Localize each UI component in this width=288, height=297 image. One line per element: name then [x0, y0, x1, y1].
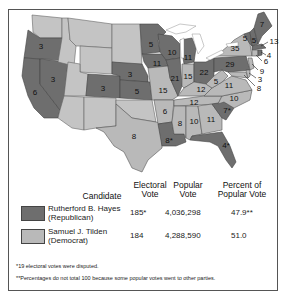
label-georgia: 11: [207, 115, 216, 124]
popular-vote-tilden: 4,288,590: [165, 231, 201, 240]
state-florida: [190, 132, 236, 168]
label-vermont: 5: [243, 34, 248, 43]
label-pennsylvania: 29: [226, 60, 235, 69]
candidate-hayes: Rutherford B. Hayes (Republican): [48, 204, 128, 222]
state-connecticut: [252, 50, 258, 56]
label-new-york: 35: [231, 44, 240, 53]
label-north-carolina: 10: [230, 94, 239, 103]
label-michigan: 11: [184, 53, 193, 62]
candidate-name: Samuel J. Tilden: [48, 227, 128, 236]
footnote-percentages: **Percentages do not total 100 because s…: [16, 275, 215, 281]
label-indiana: 15: [184, 72, 193, 81]
label-oregon: 3: [39, 42, 44, 51]
legend-swatch-democrat: [21, 229, 45, 244]
percent-hayes: 47.9**: [231, 208, 253, 217]
candidate-party: (Republican): [48, 213, 128, 222]
header-percent-line2: Popular Vote: [210, 190, 274, 199]
label-ohio: 22: [200, 68, 209, 77]
label-connecticut: 6: [264, 57, 269, 66]
state-dakota: [112, 24, 142, 66]
label-mississippi: 8: [178, 119, 183, 128]
state-wyoming: [80, 46, 112, 74]
label-virginia: 11: [225, 81, 234, 90]
label-delaware: 3: [258, 75, 263, 84]
label-kansas: 5: [135, 87, 140, 96]
label-nebraska: 3: [128, 70, 133, 79]
label-arkansas: 6: [163, 107, 168, 116]
header-popular-vote: Popular Vote: [166, 181, 210, 199]
state-montana: [68, 18, 112, 48]
label-florida: 4*: [222, 141, 230, 150]
label-new-hampshire: 5: [252, 36, 257, 45]
state-washington: [32, 15, 62, 38]
label-maryland: 8: [257, 84, 262, 93]
label-illinois: 21: [171, 74, 180, 83]
label-louisiana: 8*: [165, 136, 173, 145]
label-tennessee: 12: [190, 98, 199, 107]
candidate-party: (Democrat): [48, 236, 128, 245]
electoral-vote-tilden: 184: [130, 231, 143, 240]
candidate-tilden: Samuel J. Tilden (Democrat): [48, 227, 128, 245]
label-south-carolina: 7*: [223, 106, 231, 115]
electoral-vote-hayes: 185*: [130, 208, 146, 217]
label-missouri: 15: [159, 86, 168, 95]
state-rhode-island: [258, 50, 262, 56]
label-colorado: 3: [101, 84, 106, 93]
popular-vote-hayes: 4,036,298: [165, 208, 201, 217]
header-candidate: Candidate: [72, 192, 132, 201]
label-alabama: 10: [190, 117, 199, 126]
label-west-virginia: 5: [214, 77, 219, 86]
label-wisconsin: 10: [168, 48, 177, 57]
footnote-disputed: *19 electoral votes were disputed.: [16, 263, 99, 269]
label-iowa: 11: [153, 59, 162, 68]
us-electoral-map: 3 6 3 3 3 5 8 5 11 15 6 8* 10 21 11 15 2…: [0, 0, 288, 200]
label-nevada: 3: [51, 75, 56, 84]
header-popular-line2: Vote: [166, 190, 210, 199]
label-california: 6: [33, 88, 38, 97]
state-new-mexico: [84, 97, 116, 130]
label-kentucky: 12: [197, 85, 206, 94]
label-massachusetts: 13: [270, 37, 279, 46]
header-percent-popular-vote: Percent of Popular Vote: [210, 181, 274, 199]
label-maine: 7: [260, 20, 265, 29]
legend-swatch-republican: [21, 206, 45, 221]
candidate-name: Rutherford B. Hayes: [48, 204, 128, 213]
percent-tilden: 51.0: [231, 231, 247, 240]
label-minnesota: 5: [149, 40, 154, 49]
label-texas: 8: [132, 132, 137, 141]
lake-superior: [166, 24, 196, 34]
